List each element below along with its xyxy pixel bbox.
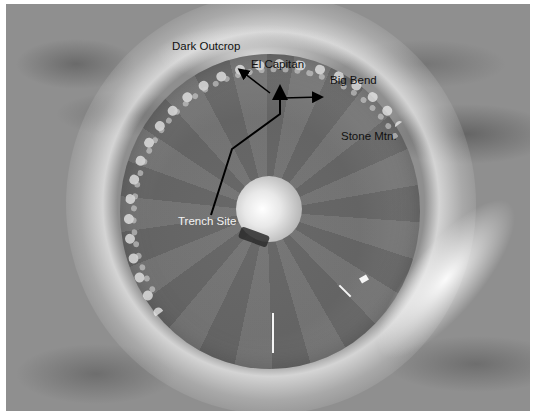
label-trench-site: Trench Site — [178, 215, 236, 228]
label-el-capitan: El Capitan — [251, 58, 304, 71]
traverse-path — [211, 88, 280, 215]
arrow-big-bend — [283, 97, 321, 98]
label-stone-mtn: Stone Mtn. — [341, 130, 397, 143]
label-big-bend: Big Bend — [330, 74, 377, 87]
arrow-dark-outcrop — [240, 70, 270, 93]
label-dark-outcrop: Dark Outcrop — [172, 40, 240, 53]
